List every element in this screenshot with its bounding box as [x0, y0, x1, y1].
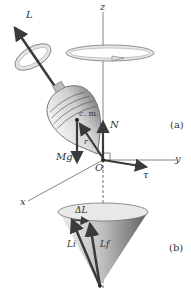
gyroscope-precession-diagram — [0, 0, 191, 296]
weight-label: Mg — [56, 152, 73, 162]
torque-label: τ — [143, 170, 149, 180]
panel-a-label: (a) — [170, 120, 184, 130]
position-label: r — [84, 138, 88, 146]
y-axis-label: y — [175, 154, 181, 164]
z-axis-label: z — [100, 2, 105, 12]
final-momentum-label: Lf — [100, 240, 109, 249]
origin-label: O — [95, 163, 103, 173]
torque-vector — [103, 160, 146, 167]
panel-b-label: (b) — [169, 243, 183, 253]
center-of-mass-label: c. m. — [79, 110, 99, 118]
angular-momentum-label: L — [26, 10, 33, 20]
delta-momentum-label: ΔL — [75, 206, 87, 215]
delta-momentum-vector — [73, 220, 88, 221]
initial-momentum-label: Li — [67, 240, 76, 249]
x-axis-label: x — [20, 197, 26, 207]
normal-force-label: N — [110, 120, 119, 130]
x-axis — [28, 160, 103, 201]
center-of-mass-dot — [75, 118, 79, 122]
